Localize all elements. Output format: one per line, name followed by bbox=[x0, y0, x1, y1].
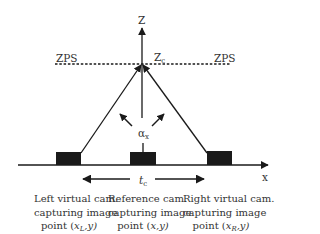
caption-line: Reference cam. bbox=[108, 192, 178, 206]
reference-camera bbox=[130, 152, 156, 165]
convergence-sub: c bbox=[161, 57, 165, 65]
right-ray bbox=[143, 65, 207, 153]
baseline-label: tc bbox=[139, 174, 147, 190]
angle-label: αx bbox=[138, 127, 149, 143]
left-camera-caption: Left virtual cam. capturing image point … bbox=[34, 192, 104, 234]
x-axis-label: x bbox=[262, 171, 268, 183]
left-camera bbox=[56, 152, 81, 165]
left-ray bbox=[81, 65, 141, 153]
right-camera bbox=[207, 151, 232, 165]
z-axis-label: Z bbox=[138, 14, 145, 26]
caption-line: Right virtual cam. bbox=[183, 192, 259, 206]
convergence-label: Zc bbox=[154, 51, 165, 67]
caption-line: capturing image bbox=[34, 206, 104, 220]
angle-sub: x bbox=[145, 133, 149, 141]
caption-line: point (x,y) bbox=[108, 219, 178, 233]
reference-camera-caption: Reference cam. capturing image point (x,… bbox=[108, 192, 178, 233]
angle-arrow-right bbox=[152, 114, 164, 126]
angle-arrow-left bbox=[120, 114, 132, 126]
baseline-sub: c bbox=[143, 180, 147, 188]
zps-label-right: ZPS bbox=[214, 52, 236, 64]
caption-line: Left virtual cam. bbox=[34, 192, 104, 206]
caption-line: capturing image bbox=[183, 206, 259, 220]
right-camera-caption: Right virtual cam. capturing image point… bbox=[183, 192, 259, 234]
caption-line: capturing image bbox=[108, 206, 178, 220]
caption-line: point (xR,y) bbox=[183, 219, 259, 234]
zps-label-left: ZPS bbox=[56, 52, 78, 64]
caption-line: point (xL,y) bbox=[34, 219, 104, 234]
